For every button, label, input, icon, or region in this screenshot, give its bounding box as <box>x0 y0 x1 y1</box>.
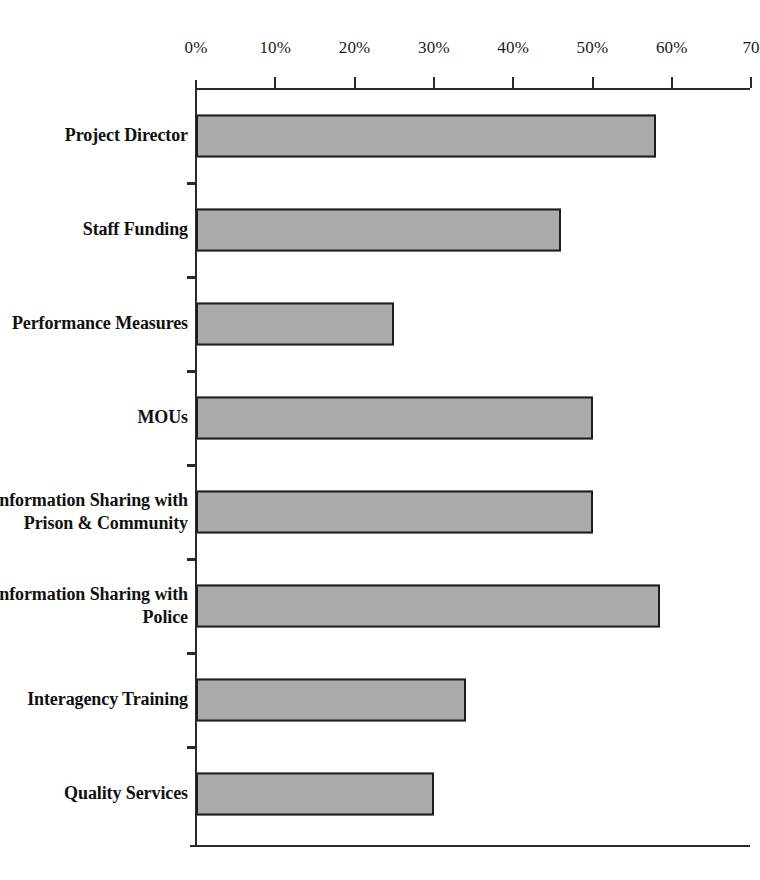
bar-row: Interagency Training <box>0 653 750 747</box>
y-axis-tick-mark <box>187 746 197 749</box>
category-label: MOUs <box>0 406 188 429</box>
bar[interactable] <box>196 585 660 628</box>
x-axis-tick-label: 20% <box>339 38 371 58</box>
bar-row: Quality Services <box>0 747 750 841</box>
y-axis-tick-mark <box>187 464 197 467</box>
x-axis-tick-label: 70 <box>742 38 759 58</box>
x-axis-tick-label-group: 0%10%20%30%40%50%60%70 <box>0 38 750 66</box>
bar[interactable] <box>196 679 466 722</box>
x-axis-tick-mark <box>750 77 752 88</box>
category-label: Information Sharing withPolice <box>0 583 188 630</box>
category-label-line: Police <box>143 607 188 627</box>
x-axis-tick-label: 30% <box>418 38 450 58</box>
category-label: Interagency Training <box>0 688 188 711</box>
category-label: Staff Funding <box>0 218 188 241</box>
category-label-line: Information Sharing with <box>0 490 188 510</box>
category-label-line: Staff Funding <box>83 219 188 239</box>
bar-row: Staff Funding <box>0 183 750 277</box>
bar[interactable] <box>196 303 394 346</box>
x-axis-tick-mark <box>512 77 514 88</box>
bar-row: Information Sharing withPolice <box>0 559 750 653</box>
x-axis-tick-label: 50% <box>577 38 609 58</box>
bar[interactable] <box>196 209 561 252</box>
category-label-line: Project Director <box>65 125 188 145</box>
category-label-line: Quality Services <box>64 783 188 803</box>
bar-row: Information Sharing withPrison & Communi… <box>0 465 750 559</box>
category-label-line: Prison & Community <box>24 513 188 533</box>
x-axis-tick-mark <box>195 80 197 98</box>
category-label: Performance Measures <box>0 312 188 335</box>
bar-row: Performance Measures <box>0 277 750 371</box>
y-axis-tick-mark <box>187 182 197 185</box>
category-label-line: Interagency Training <box>27 689 188 709</box>
x-axis-tick-label: 10% <box>259 38 291 58</box>
category-label-line: Information Sharing with <box>0 584 188 604</box>
bar[interactable] <box>196 115 656 158</box>
bar[interactable] <box>196 491 593 534</box>
y-axis-tick-mark <box>187 558 197 561</box>
x-axis-tick-label: 0% <box>184 38 207 58</box>
x-axis-tick-label: 40% <box>497 38 529 58</box>
category-label: Information Sharing withPrison & Communi… <box>0 489 188 536</box>
y-axis-tick-mark <box>187 370 197 373</box>
x-axis-tick-mark <box>354 77 356 88</box>
plot-area: Project DirectorStaff FundingPerformance… <box>0 88 750 845</box>
bar[interactable] <box>196 397 593 440</box>
x-axis-tick-label: 60% <box>656 38 688 58</box>
x-axis-tick-mark <box>274 77 276 88</box>
y-axis-tick-mark <box>187 276 197 279</box>
category-label: Project Director <box>0 124 188 147</box>
x-axis-tick-mark <box>592 77 594 88</box>
x-axis-tick-mark <box>671 77 673 88</box>
bar-row: Project Director <box>0 89 750 183</box>
category-label-line: MOUs <box>137 407 188 427</box>
y-axis-tick-mark <box>187 652 197 655</box>
category-label: Quality Services <box>0 782 188 805</box>
x-axis-tick-mark <box>433 77 435 88</box>
category-label-line: Performance Measures <box>12 313 188 333</box>
bar-row: MOUs <box>0 371 750 465</box>
bar[interactable] <box>196 773 434 816</box>
x-axis-bottom-line <box>190 845 750 847</box>
